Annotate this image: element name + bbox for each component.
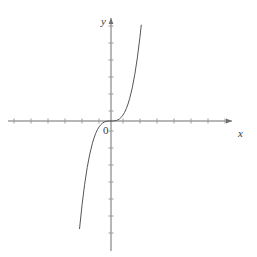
origin-label: 0 (103, 125, 109, 136)
y-axis-label: y (101, 16, 106, 27)
cubic-curve (80, 25, 142, 228)
x-axis-arrowhead (226, 119, 232, 124)
cubic-function-graph-figure: y x 0 (0, 0, 257, 257)
x-axis-label: x (238, 128, 243, 139)
y-axis-arrowhead (109, 18, 114, 24)
plot-canvas (0, 0, 257, 257)
